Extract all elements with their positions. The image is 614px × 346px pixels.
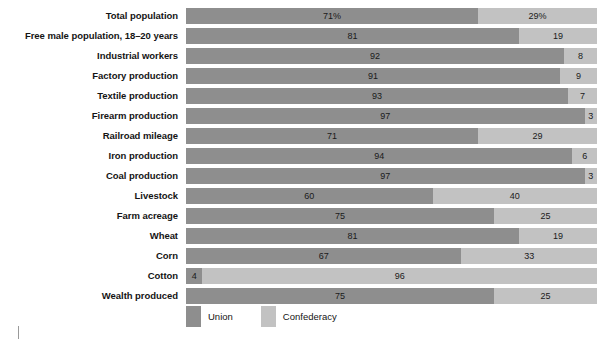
bar-value-confederacy: 40: [510, 188, 520, 204]
bar-value-confederacy: 8: [578, 48, 583, 64]
bar-value-confederacy: 6: [582, 148, 587, 164]
bar-segment-union: 71: [186, 128, 478, 144]
chart-row: Railroad mileage7129: [0, 128, 614, 144]
category-label: Cotton: [0, 268, 178, 284]
chart-row: Cotton496: [0, 268, 614, 284]
bar-value-confederacy: 19: [553, 228, 563, 244]
bar-value-confederacy: 3: [588, 168, 593, 184]
bar-value-union: 75: [335, 288, 345, 304]
chart-row: Livestock6040: [0, 188, 614, 204]
bar-segment-union: 67: [186, 248, 461, 264]
chart-plot-area: Total population71%29%Free male populati…: [0, 8, 614, 308]
bar-track: 7129: [186, 128, 597, 144]
legend-swatch: [261, 306, 276, 327]
chart-row: Industrial workers928: [0, 48, 614, 64]
bar-segment-confederacy: 9: [560, 68, 597, 84]
bar-track: 973: [186, 168, 597, 184]
bar-value-confederacy: 19: [553, 28, 563, 44]
category-label: Total population: [0, 8, 178, 24]
bar-track: 6040: [186, 188, 597, 204]
bar-segment-confederacy: 25: [494, 208, 597, 224]
chart-row: Textile production937: [0, 88, 614, 104]
bar-value-union: 71: [327, 128, 337, 144]
category-label: Iron production: [0, 148, 178, 164]
bar-segment-confederacy: 40: [433, 188, 597, 204]
chart-row: Iron production946: [0, 148, 614, 164]
bar-segment-union: 81: [186, 28, 519, 44]
stacked-bar-chart: Total population71%29%Free male populati…: [0, 0, 614, 346]
bar-track: 937: [186, 88, 597, 104]
bar-segment-union: 60: [186, 188, 433, 204]
category-label: Corn: [0, 248, 178, 264]
bar-segment-confederacy: 3: [585, 108, 597, 124]
bar-segment-union: 71%: [186, 8, 478, 24]
bar-segment-confederacy: 8: [564, 48, 597, 64]
bar-segment-union: 75: [186, 208, 494, 224]
bar-segment-union: 91: [186, 68, 560, 84]
chart-row: Farm acreage7525: [0, 208, 614, 224]
bar-value-union: 91: [368, 68, 378, 84]
bar-segment-union: 4: [186, 268, 202, 284]
bar-track: 8119: [186, 28, 597, 44]
category-label: Railroad mileage: [0, 128, 178, 144]
bar-track: 946: [186, 148, 597, 164]
bar-value-union: 81: [347, 228, 357, 244]
bar-value-confederacy: 25: [541, 288, 551, 304]
category-label: Coal production: [0, 168, 178, 184]
bar-segment-confederacy: 19: [519, 28, 597, 44]
bar-value-confederacy: 9: [576, 68, 581, 84]
bar-value-union: 71%: [323, 8, 341, 24]
bar-value-union: 97: [380, 108, 390, 124]
bar-segment-union: 94: [186, 148, 572, 164]
chart-row: Wheat8119: [0, 228, 614, 244]
category-label: Firearm production: [0, 108, 178, 124]
bar-value-union: 60: [304, 188, 314, 204]
bar-value-confederacy: 29: [532, 128, 542, 144]
bar-segment-confederacy: 6: [572, 148, 597, 164]
chart-legend: UnionConfederacy: [186, 305, 365, 327]
bar-track: 496: [186, 268, 597, 284]
bar-segment-confederacy: 29%: [478, 8, 597, 24]
bar-value-confederacy: 25: [541, 208, 551, 224]
bar-track: 7525: [186, 208, 597, 224]
bar-value-union: 97: [380, 168, 390, 184]
bar-segment-confederacy: 19: [519, 228, 597, 244]
chart-row: Corn6733: [0, 248, 614, 264]
category-label: Textile production: [0, 88, 178, 104]
bar-track: 973: [186, 108, 597, 124]
category-label: Industrial workers: [0, 48, 178, 64]
bar-track: 928: [186, 48, 597, 64]
bar-track: 919: [186, 68, 597, 84]
category-label: Livestock: [0, 188, 178, 204]
bar-segment-confederacy: 3: [585, 168, 597, 184]
chart-row: Total population71%29%: [0, 8, 614, 24]
bar-segment-union: 75: [186, 288, 494, 304]
bar-track: 8119: [186, 228, 597, 244]
category-label: Wealth produced: [0, 288, 178, 304]
bar-value-union: 93: [372, 88, 382, 104]
bar-segment-union: 81: [186, 228, 519, 244]
chart-row: Firearm production973: [0, 108, 614, 124]
bar-value-confederacy: 29%: [528, 8, 546, 24]
bar-segment-confederacy: 7: [568, 88, 597, 104]
legend-entry: Union: [186, 306, 233, 327]
bar-segment-union: 93: [186, 88, 568, 104]
bar-value-union: 67: [319, 248, 329, 264]
bar-segment-union: 97: [186, 168, 585, 184]
bar-value-confederacy: 3: [588, 108, 593, 124]
bar-value-confederacy: 33: [524, 248, 534, 264]
legend-label: Confederacy: [283, 311, 337, 322]
category-label: Farm acreage: [0, 208, 178, 224]
chart-row: Factory production919: [0, 68, 614, 84]
legend-label: Union: [208, 311, 233, 322]
chart-row: Wealth produced7525: [0, 288, 614, 304]
category-label: Factory production: [0, 68, 178, 84]
bar-track: 71%29%: [186, 8, 597, 24]
chart-row: Coal production973: [0, 168, 614, 184]
legend-entry: Confederacy: [261, 306, 337, 327]
bar-segment-confederacy: 25: [494, 288, 597, 304]
category-label: Wheat: [0, 228, 178, 244]
bar-value-union: 4: [192, 268, 197, 284]
bar-segment-confederacy: 33: [461, 248, 597, 264]
bar-segment-union: 92: [186, 48, 564, 64]
